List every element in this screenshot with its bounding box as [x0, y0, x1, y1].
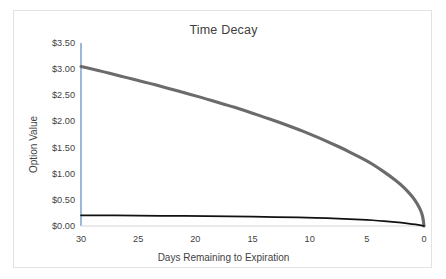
axis-lines	[81, 43, 424, 226]
x-axis-tick-label: 10	[295, 234, 325, 244]
y-axis-title: Option Value	[28, 95, 39, 195]
time-decay-plot	[14, 11, 433, 269]
x-axis-tick-label: 20	[180, 234, 210, 244]
y-axis-tick-label: $0.00	[31, 221, 75, 231]
y-axis-tick-label: $3.50	[31, 38, 75, 48]
x-axis-tick-label: 5	[352, 234, 382, 244]
series-line-at-the-money	[81, 67, 424, 226]
x-axis-tick-label: 25	[123, 234, 153, 244]
series-group	[81, 67, 424, 226]
chart-card: Time Decay $0.00$0.50$1.00$1.50$2.00$2.5…	[13, 10, 432, 268]
x-axis-title: Days Remaining to Expiration	[14, 252, 433, 263]
y-axis-tick-label: $0.50	[31, 195, 75, 205]
series-line-out-of-the-money	[81, 215, 424, 226]
x-axis-tick-label: 0	[409, 234, 439, 244]
x-axis-tick-label: 30	[66, 234, 96, 244]
y-axis-tick-label: $3.00	[31, 64, 75, 74]
x-axis-tick-label: 15	[238, 234, 268, 244]
